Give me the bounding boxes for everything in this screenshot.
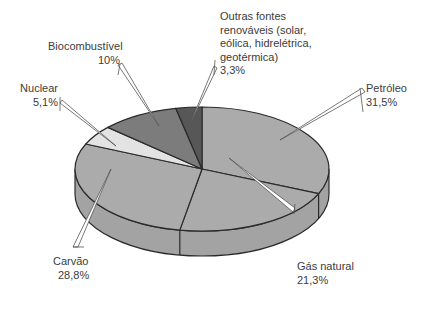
label-gas-natural: Gás natural 21,3% [297,260,354,287]
label-carvao: Carvão 28,8% [53,255,89,282]
label-nuclear: Nuclear 5,1% [10,82,58,109]
label-petroleo: Petróleo 31,5% [366,82,407,109]
label-outras-renovaveis: Outras fontes renováveis (solar, eólica,… [220,10,312,78]
label-biocombustivel: Biocombustível 10% [48,40,122,67]
